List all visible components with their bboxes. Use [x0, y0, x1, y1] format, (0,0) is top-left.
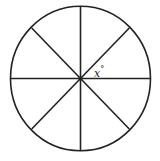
degree-symbol: °: [100, 65, 104, 74]
circle-sector-diagram: x°: [0, 0, 160, 161]
center-point: [79, 77, 83, 81]
